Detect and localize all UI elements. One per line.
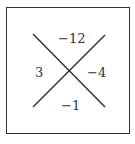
bottom-value: −1 — [61, 99, 80, 112]
x-cross-lines — [0, 0, 135, 144]
left-value: 3 — [35, 66, 43, 79]
right-value: −4 — [87, 66, 106, 79]
top-value: −12 — [58, 32, 85, 45]
